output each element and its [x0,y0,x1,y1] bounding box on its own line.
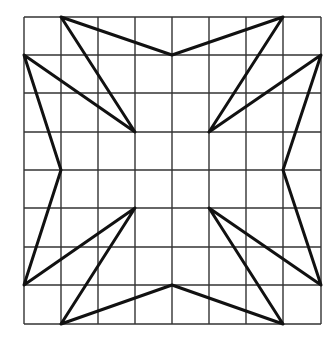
grid-star-figure [0,0,335,348]
square-grid [24,17,321,324]
